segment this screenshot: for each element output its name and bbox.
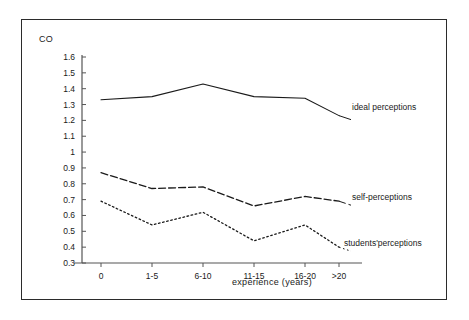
series-paths [101,84,351,251]
y-tick-label: 0.7 [51,195,75,205]
axis-lines [74,55,362,263]
chart-figure: CO experience (years) 1.61.51.41.31.21.1… [0,0,469,320]
y-tick-label: 0.5 [51,226,75,236]
series-line-0 [101,84,339,116]
y-tick-label: 0.8 [51,179,75,189]
y-tick-label: 1.6 [51,52,75,62]
series-label-0: ideal perceptions [352,102,416,112]
y-axis-title: CO [39,34,53,44]
y-tick-label: 1 [51,147,75,157]
y-tick-label: 1.2 [51,115,75,125]
x-tick-label: 0 [79,271,123,281]
y-tick-label: 0.6 [51,210,75,220]
y-tick-label: 1.1 [51,131,75,141]
y-tick-label: 0.3 [51,258,75,268]
series-line-2 [101,201,339,247]
series-label-1: self-perceptions [352,192,412,202]
series-line-1 [101,173,339,206]
y-tick-label: 0.9 [51,163,75,173]
y-tick-label: 1.3 [51,100,75,110]
series-label-2: students'perceptions [344,238,422,248]
x-tick-label: 6-10 [181,271,225,281]
y-tick-label: 1.4 [51,84,75,94]
y-tick-label: 1.5 [51,68,75,78]
x-tick-label: 1-5 [130,271,174,281]
x-tick-label: >20 [317,271,361,281]
y-tick-label: 0.4 [51,242,75,252]
x-tick-label: 11-15 [232,271,276,281]
